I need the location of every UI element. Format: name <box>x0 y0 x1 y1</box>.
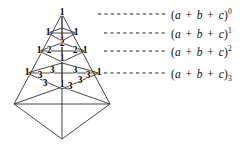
base-edge-left-front <box>14 104 62 139</box>
cross-section-2-left-diagonal <box>39 51 62 62</box>
cross-section-1-back-left <box>48 28 62 33</box>
cross-section-2-back-left <box>39 43 62 51</box>
cross-section-2-back-right <box>62 43 85 51</box>
leader-lines-group <box>98 14 167 73</box>
base-edge-right-front <box>62 104 110 139</box>
cross-section-3-right-diagonal <box>62 73 99 89</box>
cross-section-3-back-right <box>62 63 99 73</box>
cross-section-3-back-left <box>27 63 62 73</box>
pyramid-diagram <box>0 0 243 144</box>
trinomial-pyramid-figure: 11111221211333313133 (a + b + c)0(a + b … <box>0 0 243 144</box>
cross-section-1-back-right <box>62 28 76 33</box>
cross-section-2-right-diagonal <box>62 51 85 62</box>
cross-section-3-left-diagonal <box>27 73 62 89</box>
